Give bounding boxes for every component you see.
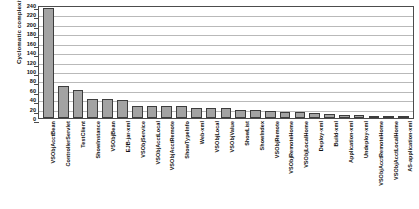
bar — [191, 108, 202, 118]
bar — [102, 99, 113, 118]
bar — [383, 116, 394, 118]
x-label-slot: VSObjAcctLocalHome — [382, 121, 397, 209]
x-label-slot: VSObjLocal — [204, 121, 219, 209]
x-axis-category-labels: VSObjAcctBeanControllerServletTestClient… — [38, 121, 414, 209]
x-label-slot: VSObjLocalHome — [293, 121, 308, 209]
bar-slot — [56, 7, 71, 118]
bar-slot — [115, 7, 130, 118]
bar — [295, 112, 306, 118]
bar-slot — [263, 7, 278, 118]
x-label-slot: Build-xml — [323, 121, 338, 209]
bar-slot — [352, 7, 367, 118]
bar — [235, 110, 246, 118]
x-label-slot: ControllerServlet — [55, 121, 70, 209]
bar-series — [39, 7, 413, 118]
x-label-slot: VSObjAcctRemoteHome — [367, 121, 382, 209]
bar — [117, 100, 128, 119]
bar — [280, 112, 291, 118]
x-label-slot: AS-application-xml — [397, 121, 412, 209]
bar — [132, 106, 143, 118]
bar — [324, 114, 335, 118]
x-label-slot: Application-xml — [338, 121, 353, 209]
bar-slot — [233, 7, 248, 118]
x-label-slot: VSObjAcctLocal — [144, 121, 159, 209]
bar-slot — [278, 7, 293, 118]
bar — [147, 106, 158, 118]
x-label-slot: ShowInstance — [85, 121, 100, 209]
bar-slot — [174, 7, 189, 118]
bar-slot — [367, 7, 382, 118]
x-label-slot: VSObjValue — [219, 121, 234, 209]
bar-slot — [337, 7, 352, 118]
x-label-slot: VSObjService — [129, 121, 144, 209]
bar-slot — [145, 7, 160, 118]
x-label-slot: VSObjBean — [100, 121, 115, 209]
bar-slot — [396, 7, 411, 118]
x-label-slot: Web-xml — [189, 121, 204, 209]
bar — [161, 106, 172, 118]
bar-slot — [219, 7, 234, 118]
bar — [265, 111, 276, 118]
x-label-slot: ShowTypeInfo — [174, 121, 189, 209]
bar-slot — [248, 7, 263, 118]
bar — [206, 108, 217, 118]
x-tick-label: AS-application-xml — [407, 121, 413, 172]
cyclomatic-complexity-bar-chart: Cyclomatic complexity 240220200180160140… — [0, 0, 419, 209]
bar-slot — [130, 7, 145, 118]
x-label-slot: Deploy-xml — [308, 121, 323, 209]
bar — [176, 106, 187, 118]
x-label-slot: ShowList — [233, 121, 248, 209]
x-label-slot: VSObjRemote — [263, 121, 278, 209]
bar-slot — [322, 7, 337, 118]
bar-slot — [381, 7, 396, 118]
x-label-slot: ShowIndex — [248, 121, 263, 209]
bar-slot — [41, 7, 56, 118]
x-label-slot: Undeploy-xml — [352, 121, 367, 209]
bar-slot — [293, 7, 308, 118]
x-label-slot: VSObjAcctBean — [40, 121, 55, 209]
x-label-slot: EJB-jar-xml — [114, 121, 129, 209]
x-label-slot: VSObjAcctRemote — [159, 121, 174, 209]
x-label-slot: VSObjRemoteHome — [278, 121, 293, 209]
bar-slot — [307, 7, 322, 118]
bar — [354, 115, 365, 118]
bar — [43, 8, 54, 118]
x-label-slot: TestClient — [70, 121, 85, 209]
bar-slot — [100, 7, 115, 118]
bar — [398, 116, 409, 118]
plot-area — [38, 6, 414, 119]
bar — [309, 113, 320, 118]
bar-slot — [159, 7, 174, 118]
bar-slot — [189, 7, 204, 118]
bar-slot — [204, 7, 219, 118]
bar — [250, 110, 261, 118]
bar — [73, 90, 84, 118]
bar — [339, 115, 350, 118]
bar — [87, 99, 98, 118]
bar — [221, 108, 232, 118]
bar-slot — [85, 7, 100, 118]
bar — [369, 116, 380, 118]
bar-slot — [71, 7, 86, 118]
bar — [58, 86, 69, 118]
